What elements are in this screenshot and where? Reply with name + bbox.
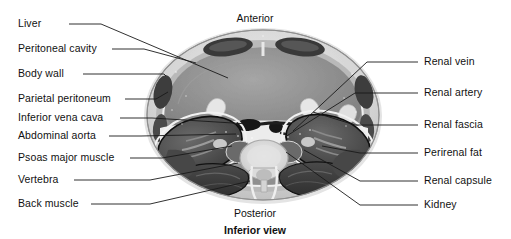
orientation-anterior: Anterior xyxy=(0,12,511,24)
label-left-abdominal-aorta: Abdominal aorta xyxy=(18,130,96,141)
label-right-renal-artery: Renal artery xyxy=(424,87,482,98)
label-right-perirenal-fat: Perirenal fat xyxy=(424,147,482,158)
leader-line xyxy=(304,150,418,181)
label-left-peritoneal-cavity: Peritoneal cavity xyxy=(18,43,97,54)
leader-line xyxy=(130,146,232,158)
leader-line xyxy=(109,134,236,136)
orientation-posterior: Posterior xyxy=(0,207,511,219)
leader-line xyxy=(286,152,418,205)
label-right-renal-vein: Renal vein xyxy=(424,56,475,67)
leader-line xyxy=(112,49,196,63)
leader-line xyxy=(120,118,249,124)
leader-line xyxy=(83,74,166,76)
label-left-inferior-vena-cava: Inferior vena cava xyxy=(18,112,103,123)
leader-line xyxy=(74,163,238,180)
leader-lines-right xyxy=(285,62,418,205)
label-left-psoas-major-muscle: Psoas major muscle xyxy=(18,152,114,163)
label-right-renal-capsule: Renal capsule xyxy=(424,175,492,186)
label-right-renal-fascia: Renal fascia xyxy=(424,119,483,130)
label-left-body-wall: Body wall xyxy=(18,68,64,79)
leader-line xyxy=(125,92,168,99)
label-left-vertebra: Vertebra xyxy=(18,174,59,185)
leader-line xyxy=(91,181,250,204)
leader-line xyxy=(285,93,418,137)
anatomy-figure: LiverPeritoneal cavityBody wallParietal … xyxy=(0,0,511,239)
figure-caption: Inferior view xyxy=(0,224,511,236)
label-left-parietal-peritoneum: Parietal peritoneum xyxy=(18,93,111,104)
leader-line xyxy=(322,146,418,153)
leader-line xyxy=(313,112,418,125)
